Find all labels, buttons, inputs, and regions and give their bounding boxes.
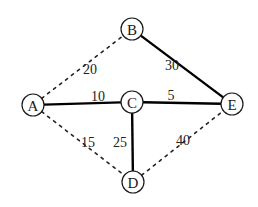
node-label-b: B (127, 22, 137, 38)
node-b: B (121, 18, 143, 40)
node-label-d: D (128, 175, 139, 191)
node-c: C (121, 91, 143, 113)
edge-c-e (143, 102, 221, 104)
node-e: E (221, 93, 243, 115)
node-label-c: C (127, 95, 137, 111)
node-d: D (122, 171, 144, 193)
node-label-a: A (28, 98, 39, 114)
node-label-e: E (227, 97, 236, 113)
edge-weight-a-c: 10 (91, 89, 105, 104)
edge-a-c (44, 102, 121, 104)
edge-weight-c-d: 25 (113, 135, 127, 150)
graph-diagram: 2010305152540 ABCDE (0, 0, 258, 207)
edge-weight-d-e: 40 (176, 133, 190, 148)
edge-weight-a-d: 15 (81, 135, 95, 150)
edge-weight-c-e: 5 (168, 88, 175, 103)
node-a: A (22, 94, 44, 116)
edge-b-e (141, 36, 223, 98)
edge-weight-b-e: 30 (165, 58, 179, 73)
edge-weight-a-b: 20 (83, 62, 97, 77)
edge-c-d (132, 113, 133, 171)
